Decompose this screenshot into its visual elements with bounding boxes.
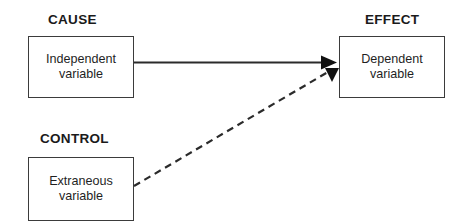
edge-line-dashed (134, 72, 328, 186)
node-label-extraneous-variable: Extraneous variable (49, 174, 113, 205)
section-label-cause: CAUSE (48, 13, 97, 27)
arrowhead-down-icon (325, 68, 339, 82)
node-label-dependent-variable: Dependent variable (361, 52, 423, 83)
diagram-canvas: CAUSE EFFECT CONTROL Independent variabl… (0, 0, 455, 224)
node-box-dependent-variable: Dependent variable (339, 36, 445, 98)
edge-extraneous-to-dependent (134, 68, 339, 186)
node-box-extraneous-variable: Extraneous variable (28, 157, 134, 221)
node-label-independent-variable: Independent variable (46, 52, 116, 83)
edge-independent-to-dependent (134, 56, 337, 70)
arrowhead-right-icon (321, 56, 337, 70)
section-label-effect: EFFECT (365, 13, 419, 27)
section-label-control: CONTROL (40, 132, 109, 146)
node-box-independent-variable: Independent variable (28, 36, 134, 98)
